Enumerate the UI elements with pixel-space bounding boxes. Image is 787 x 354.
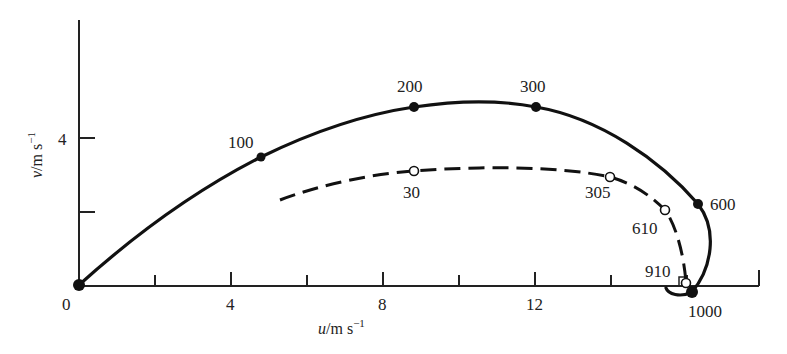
- marker-0: [73, 279, 85, 291]
- x-axis-unit: /m s: [326, 320, 353, 337]
- label-305: 305: [585, 183, 611, 202]
- y-tick-label-4: 4: [58, 130, 67, 149]
- marker-200: [409, 102, 419, 112]
- label-910: 910: [645, 262, 671, 281]
- label-300: 300: [520, 77, 546, 96]
- label-610: 610: [632, 219, 658, 238]
- y-axis-title: v/m s−1: [25, 132, 45, 178]
- x-tick-label-8: 8: [378, 295, 387, 314]
- label-100: 100: [228, 133, 254, 152]
- x-axis-title: u/m s−1: [318, 317, 365, 337]
- x-axis-var: u: [318, 320, 326, 337]
- axes: [79, 20, 759, 286]
- chart: 0 4 8 12 4 u/m s−1 v/m s−1 100 200 300 6…: [0, 0, 787, 354]
- marker-910: [682, 279, 691, 288]
- label-200: 200: [397, 77, 423, 96]
- marker-610: [661, 206, 670, 215]
- marker-300: [531, 102, 541, 112]
- marker-600: [693, 199, 703, 209]
- label-30: 30: [403, 183, 420, 202]
- marker-305: [606, 173, 615, 182]
- x-tick-label-4: 4: [226, 295, 235, 314]
- y-axis-unit: /m s: [28, 144, 45, 171]
- dashed-trajectory-line: [280, 168, 686, 283]
- x-tick-label-12: 12: [526, 295, 543, 314]
- svg-text:u/m s−1: u/m s−1: [318, 317, 365, 337]
- label-600: 600: [710, 195, 736, 214]
- x-tick-label-0: 0: [62, 295, 71, 314]
- y-axis-exp: −1: [25, 132, 37, 144]
- svg-text:v/m s−1: v/m s−1: [25, 132, 45, 178]
- label-1000: 1000: [688, 302, 722, 321]
- x-axis-exp: −1: [353, 317, 365, 329]
- marker-100: [257, 153, 266, 162]
- solid-trajectory-line: [79, 102, 710, 295]
- marker-30: [410, 167, 419, 176]
